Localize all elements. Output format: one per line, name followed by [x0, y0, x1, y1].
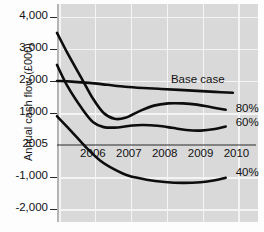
y-tick-label-5: -1,000: [4, 169, 48, 181]
x-tick-label-2: 2007: [116, 147, 142, 159]
y-tick-mark-2: [50, 81, 57, 82]
cash-flow-chart: Annual cash flow (£000) 4,0003,0002,0001…: [0, 0, 264, 232]
series-label-40: 40%: [236, 166, 259, 178]
y-tick-label-2: 2,000: [4, 73, 48, 85]
y-tick-mark-6: [50, 209, 57, 210]
y-tick-mark-3: [50, 113, 57, 114]
horizontal-gridline-5: [59, 177, 258, 179]
series-label-base-case: Base case: [171, 73, 225, 85]
plot-gridlines: [59, 4, 258, 222]
y-tick-mark-1: [50, 49, 57, 50]
y-tick-label-3: 1,000: [4, 105, 48, 117]
horizontal-gridline-6: [59, 209, 258, 211]
plot-area: [57, 4, 258, 222]
horizontal-gridline-2: [59, 81, 258, 83]
x-tick-label-5: 2010: [224, 147, 250, 159]
y-tick-label-6: -2,000: [4, 201, 48, 213]
y-axis-tick-labels: 4,0003,0002,0001,0002005-1,000-2,000: [0, 0, 48, 232]
y-tick-label-0: 4,000: [4, 9, 48, 21]
horizontal-gridline-3: [59, 113, 258, 115]
x-tick-label-3: 2008: [152, 147, 178, 159]
y-tick-label-1: 3,000: [4, 41, 48, 53]
y-tick-label-4: 2005: [4, 137, 48, 149]
y-tick-mark-5: [50, 177, 57, 178]
horizontal-gridline-1: [59, 49, 258, 51]
x-tick-label-1: 2006: [80, 147, 106, 159]
series-label-80: 80%: [236, 102, 259, 114]
horizontal-gridline-0: [59, 17, 258, 19]
series-label-60: 60%: [236, 116, 259, 128]
y-tick-mark-0: [50, 17, 57, 18]
x-tick-label-4: 2009: [188, 147, 214, 159]
